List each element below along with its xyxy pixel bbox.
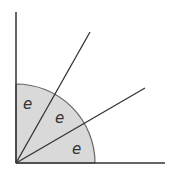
sector-label-top: e [23, 95, 32, 113]
quarter-circle-diagram: e e e [0, 0, 174, 173]
sector-label-middle: e [55, 109, 64, 127]
sector-label-bottom: e [72, 140, 81, 158]
